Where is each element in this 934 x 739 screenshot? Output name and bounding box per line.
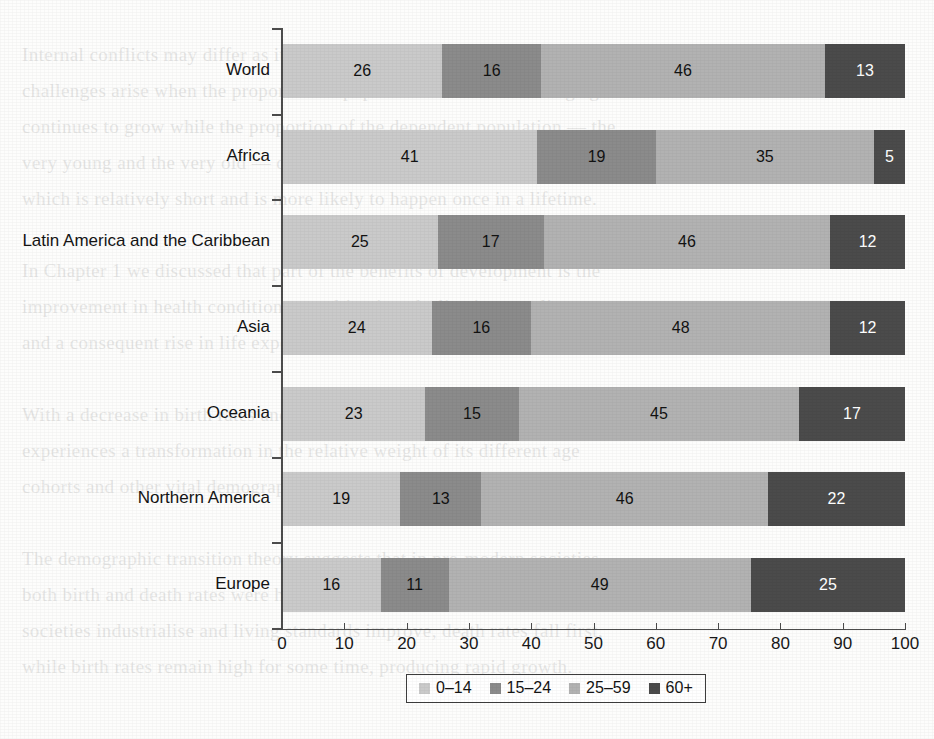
x-axis-tick (407, 623, 408, 630)
bar-segment-value: 17 (843, 405, 861, 423)
x-axis-tick-label: 30 (439, 634, 499, 654)
bar-segment-1524: 15 (425, 387, 518, 441)
bar-segment-value: 45 (650, 405, 668, 423)
bar-segment-014: 23 (282, 387, 425, 441)
bar-segment-60+: 25 (751, 558, 905, 612)
legend-label: 25–59 (586, 679, 631, 697)
bar-segment-value: 11 (406, 576, 423, 594)
bar-segment-2559: 46 (481, 472, 768, 526)
x-axis-tick (594, 623, 595, 630)
bar-segment-value: 41 (401, 148, 419, 166)
bar-segment-value: 12 (859, 319, 877, 337)
bar-segment-value: 46 (616, 490, 634, 508)
bar-segment-60+: 5 (874, 130, 905, 184)
legend-item[interactable]: 60+ (649, 679, 693, 697)
x-axis-tick (718, 623, 719, 630)
bar-segment-value: 22 (828, 490, 846, 508)
category-label: Asia (0, 317, 270, 337)
legend-item[interactable]: 0–14 (419, 679, 472, 697)
x-axis-tick (344, 623, 345, 630)
bar-segment-value: 23 (345, 405, 363, 423)
bar-segment-014: 19 (282, 472, 400, 526)
y-axis-tick (272, 628, 282, 630)
bar-segment-value: 17 (482, 233, 500, 251)
bar-segment-value: 5 (885, 148, 894, 166)
bar-segment-value: 35 (756, 148, 774, 166)
bar-segment-60+: 13 (825, 44, 905, 98)
bar-segment-value: 25 (819, 576, 837, 594)
bar-segment-1524: 16 (442, 44, 541, 98)
bar-segment-value: 25 (351, 233, 369, 251)
bar-segment-014: 41 (282, 130, 537, 184)
bar-segment-value: 13 (856, 62, 874, 80)
legend-swatch-icon (419, 683, 430, 694)
bar-segment-60+: 12 (830, 215, 905, 269)
bar-segment-014: 25 (282, 215, 438, 269)
legend-swatch-icon (569, 683, 580, 694)
x-axis-tick (282, 623, 283, 630)
x-axis-tick (531, 623, 532, 630)
bar-segment-1524: 17 (438, 215, 544, 269)
bar-segment-value: 19 (588, 148, 606, 166)
bar-segment-value: 46 (674, 62, 692, 80)
x-axis-tick-label: 40 (501, 634, 561, 654)
bar-segment-1524: 13 (400, 472, 481, 526)
x-axis-tick-label: 80 (750, 634, 810, 654)
bar-segment-value: 24 (348, 319, 366, 337)
y-axis-tick (272, 371, 282, 373)
bar-segment-014: 26 (282, 44, 442, 98)
legend-swatch-icon (490, 683, 501, 694)
x-axis-tick-label: 0 (252, 634, 312, 654)
x-axis-tick (843, 623, 844, 630)
x-axis-tick (469, 623, 470, 630)
bar-segment-value: 12 (859, 233, 877, 251)
bar-segment-2559: 46 (544, 215, 831, 269)
x-axis-tick-label: 90 (813, 634, 873, 654)
category-label: Oceania (0, 403, 270, 423)
x-axis-tick-label: 70 (688, 634, 748, 654)
bar-segment-value: 46 (678, 233, 696, 251)
category-label: Latin America and the Caribbean (0, 231, 270, 251)
legend-swatch-icon (649, 683, 660, 694)
x-axis-tick-label: 10 (314, 634, 374, 654)
bar-row: 26164613 (282, 44, 905, 98)
bar-segment-60+: 12 (830, 301, 905, 355)
y-axis-tick (272, 457, 282, 459)
bar-segment-1524: 16 (432, 301, 532, 355)
bar-row: 19134622 (282, 472, 905, 526)
bar-row: 4119355 (282, 130, 905, 184)
chart-legend: 0–1415–2425–5960+ (406, 674, 706, 703)
bar-row: 23154517 (282, 387, 905, 441)
x-axis-tick-label: 100 (875, 634, 934, 654)
plot-area: 2616461341193552517461224164812231545171… (282, 28, 905, 628)
bar-segment-value: 16 (483, 62, 501, 80)
y-axis-tick (272, 114, 282, 116)
bar-segment-value: 15 (463, 405, 481, 423)
bar-segment-1524: 11 (381, 558, 449, 612)
y-axis-tick (272, 542, 282, 544)
category-label: Northern America (0, 488, 270, 508)
x-axis-tick-label: 20 (377, 634, 437, 654)
bar-segment-2559: 48 (531, 301, 830, 355)
x-axis-tick (656, 623, 657, 630)
bar-segment-value: 26 (353, 62, 371, 80)
legend-item[interactable]: 25–59 (569, 679, 631, 697)
legend-label: 60+ (666, 679, 693, 697)
x-axis-tick (905, 623, 906, 630)
y-axis-tick (272, 285, 282, 287)
x-axis-tick-label: 50 (564, 634, 624, 654)
y-axis-line (281, 28, 283, 630)
bar-segment-value: 48 (672, 319, 690, 337)
bar-segment-value: 16 (472, 319, 490, 337)
bar-segment-value: 49 (591, 576, 609, 594)
stacked-bar-chart-figure: 2616461341193552517461224164812231545171… (0, 0, 934, 739)
bar-segment-2559: 45 (519, 387, 799, 441)
x-axis-tick-label: 60 (626, 634, 686, 654)
bar-row: 16114925 (282, 558, 905, 612)
bar-segment-2559: 49 (449, 558, 751, 612)
legend-item[interactable]: 15–24 (490, 679, 552, 697)
bar-segment-2559: 35 (656, 130, 874, 184)
bar-segment-value: 19 (332, 490, 350, 508)
bar-segment-014: 16 (282, 558, 381, 612)
y-axis-tick (272, 199, 282, 201)
